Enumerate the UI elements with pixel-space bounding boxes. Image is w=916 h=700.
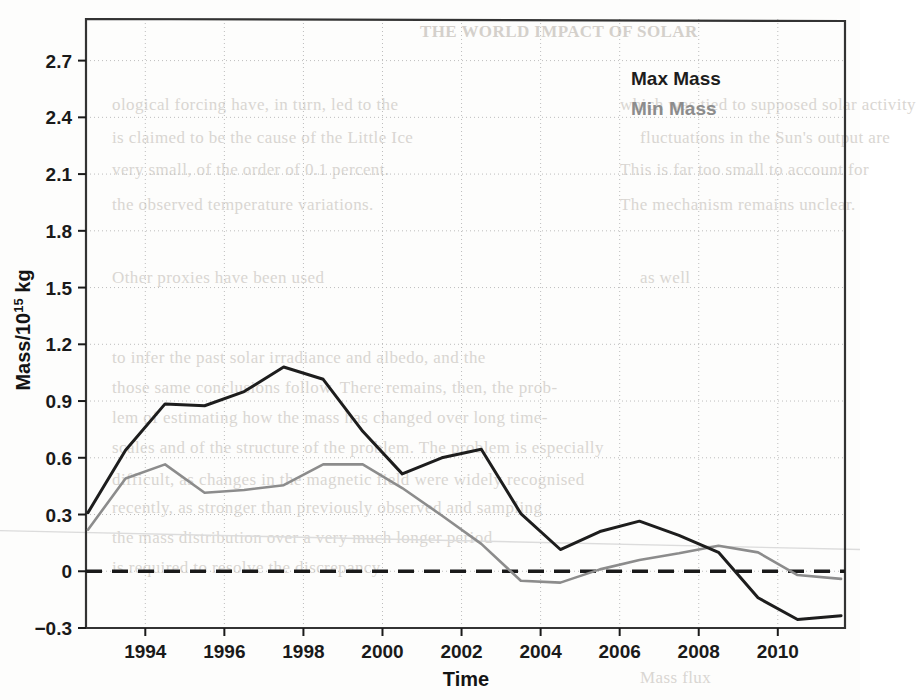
plot-frame-border bbox=[86, 19, 845, 628]
y-tick-label: 0.6 bbox=[46, 448, 72, 469]
y-tick-label: 0.9 bbox=[46, 391, 72, 412]
y-axis-title-superscript: 15 bbox=[11, 298, 26, 312]
x-tick-label: 1994 bbox=[124, 641, 167, 662]
y-tick-label: 1.8 bbox=[46, 221, 72, 242]
x-tick-label: 2002 bbox=[440, 641, 482, 662]
legend-item-max-mass[interactable]: Max Mass bbox=[631, 68, 721, 89]
y-axis-title: Mass/1015 kg bbox=[11, 269, 34, 390]
x-axis-title: Time bbox=[443, 668, 489, 690]
x-tick-label: 2010 bbox=[757, 641, 799, 662]
x-tick-label: 1998 bbox=[282, 641, 324, 662]
x-axis-tick-labels: 199419961998200020022004200620082010 bbox=[124, 641, 799, 662]
y-axis-title-prefix: Mass/10 bbox=[12, 313, 34, 391]
x-tick-label: 2008 bbox=[678, 641, 720, 662]
legend-item-min-mass[interactable]: Min Mass bbox=[631, 98, 717, 119]
series-line-max-mass[interactable] bbox=[88, 367, 841, 619]
y-tick-label: 2.1 bbox=[46, 164, 73, 185]
y-tick-label: 2.4 bbox=[46, 107, 73, 128]
x-tick-label: 2004 bbox=[519, 641, 562, 662]
plot-frame bbox=[86, 19, 845, 628]
y-axis-tick-labels: −0.300.30.60.91.21.51.82.12.42.7 bbox=[34, 51, 72, 639]
x-tick-label: 2006 bbox=[599, 641, 641, 662]
y-tick-label: 1.5 bbox=[46, 278, 73, 299]
y-tick-label: 1.2 bbox=[46, 334, 72, 355]
y-axis-title-suffix: kg bbox=[12, 269, 34, 298]
data-series-layer[interactable] bbox=[88, 367, 841, 619]
x-tick-label: 2000 bbox=[361, 641, 403, 662]
axis-ticks bbox=[78, 61, 778, 636]
y-tick-label: 0 bbox=[61, 561, 72, 582]
x-tick-label: 1996 bbox=[203, 641, 245, 662]
grid-lines bbox=[86, 19, 845, 628]
y-tick-label: 0.3 bbox=[46, 505, 72, 526]
y-tick-label: 2.7 bbox=[46, 51, 72, 72]
y-tick-label: −0.3 bbox=[34, 618, 72, 639]
chart-legend[interactable]: Max Mass Min Mass bbox=[631, 68, 721, 119]
